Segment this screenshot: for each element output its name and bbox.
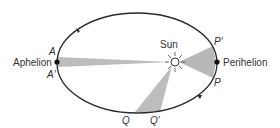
label-a-prime: A′ (46, 69, 57, 80)
label-q-prime: Q′ (150, 115, 161, 126)
label-p-prime: P′ (214, 36, 224, 47)
sun-icon (165, 52, 185, 72)
label-a: A (48, 46, 56, 57)
label-sun: Sun (160, 39, 178, 50)
label-q: Q (122, 115, 130, 126)
sector-aphelion (58, 57, 171, 67)
aphelion-dot (54, 59, 59, 64)
label-aphelion: Aphelion (13, 57, 52, 68)
label-p: P (214, 77, 221, 88)
sector-q (135, 66, 172, 112)
label-perihelion: Perihelion (223, 57, 267, 68)
arrow-icon-bottom (197, 95, 202, 99)
perihelion-dot (214, 59, 219, 64)
orbit-diagram: Aphelion Perihelion Sun A A′ P′ P Q Q′ (0, 0, 280, 128)
